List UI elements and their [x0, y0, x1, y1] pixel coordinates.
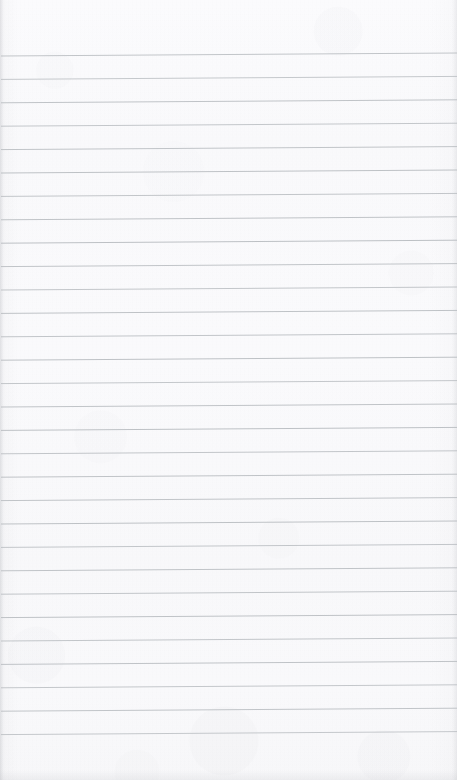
scanned-notepad-page: blank ruled page — no handwriting, no pr…	[0, 0, 457, 780]
paper-background	[0, 0, 457, 780]
